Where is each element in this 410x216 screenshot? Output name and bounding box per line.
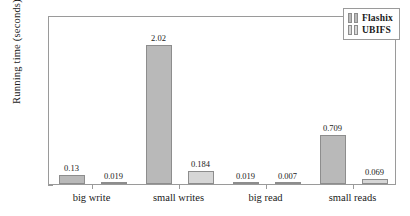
x-axis-label: big read	[248, 192, 282, 203]
legend: Flashix UBIFS	[343, 8, 400, 40]
x-axis-label: big write	[73, 192, 111, 203]
bar-value-label: 0.13	[64, 163, 79, 173]
bar	[275, 182, 301, 184]
bar-value-label: 0.019	[236, 171, 255, 181]
bar	[146, 45, 172, 184]
bar	[59, 175, 85, 184]
legend-swatch-bar-b	[354, 13, 358, 23]
x-tick-mark	[266, 185, 267, 189]
legend-swatch-bar-a	[348, 25, 352, 35]
plot-area: 0.130.0192.020.1840.0190.0070.7090.069	[49, 17, 395, 184]
bar-value-label: 0.019	[104, 171, 123, 181]
plot-frame: 0.130.0192.020.1840.0190.0070.7090.069	[48, 16, 396, 185]
legend-swatch-bar-a	[348, 13, 352, 23]
bar-chart-figure: Running time (seconds) 012 0.130.0192.02…	[0, 0, 410, 216]
y-axis-title: Running time (seconds)	[11, 0, 22, 132]
bar	[101, 182, 127, 184]
bar-value-label: 0.184	[191, 159, 210, 169]
x-tick-mark	[179, 185, 180, 189]
bar	[320, 135, 346, 184]
legend-swatch-bar-b	[354, 25, 358, 35]
bar	[188, 171, 214, 184]
x-tick-mark	[353, 185, 354, 189]
bar-value-label: 0.069	[365, 167, 384, 177]
x-tick-mark	[92, 185, 93, 189]
legend-item-ubifs: UBIFS	[348, 24, 393, 36]
legend-label-flashix: Flashix	[362, 13, 393, 23]
legend-item-flashix: Flashix	[348, 12, 393, 24]
legend-swatch-flashix	[348, 13, 358, 23]
legend-label-ubifs: UBIFS	[362, 25, 391, 35]
x-axis-label: small writes	[153, 192, 204, 203]
bar	[362, 179, 388, 184]
bar	[233, 182, 259, 184]
bar-value-label: 0.709	[323, 123, 342, 133]
bar-value-label: 2.02	[151, 33, 166, 43]
bar-value-label: 0.007	[278, 171, 297, 181]
legend-swatch-ubifs	[348, 25, 358, 35]
x-axis-label: small reads	[329, 192, 377, 203]
